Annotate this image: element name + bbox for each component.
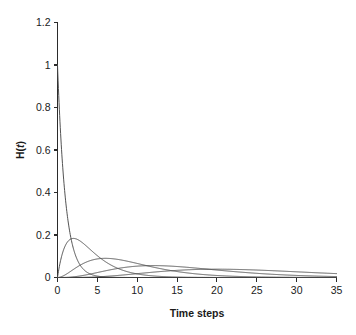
y-tick-label: 1	[45, 59, 51, 71]
x-tick-label: 10	[131, 284, 143, 296]
x-axis-title: Time steps	[170, 307, 225, 319]
y-tick-label: 0.6	[36, 144, 51, 156]
y-axis-title: H(t)	[14, 141, 26, 159]
x-tick-label: 35	[331, 284, 343, 296]
y-axis-title-close: )	[14, 141, 26, 145]
y-axis-ticks: 00.20.40.60.811.2	[36, 16, 58, 283]
y-axis-title-h: H(	[14, 147, 26, 159]
x-tick-label: 25	[251, 284, 263, 296]
y-tick-label: 0.2	[36, 229, 51, 241]
x-axis-ticks: 05101520253035	[55, 278, 343, 296]
x-tick-label: 5	[94, 284, 100, 296]
y-tick-label: 0.8	[36, 101, 51, 113]
y-tick-label: 0	[45, 271, 51, 283]
y-tick-label: 0.4	[36, 186, 51, 198]
chart-figure: 00.20.40.60.811.2 05101520253035 Time st…	[0, 0, 356, 335]
y-tick-label: 1.2	[36, 16, 51, 28]
curve-k=1	[58, 65, 337, 278]
x-tick-label: 0	[55, 284, 61, 296]
x-tick-label: 20	[211, 284, 223, 296]
plot-canvas: 00.20.40.60.811.2 05101520253035 Time st…	[0, 0, 356, 335]
y-axis-title-group: H(t)	[14, 141, 26, 159]
x-tick-label: 30	[291, 284, 303, 296]
data-curves	[58, 65, 337, 278]
x-tick-label: 15	[171, 284, 183, 296]
axes	[58, 23, 337, 278]
